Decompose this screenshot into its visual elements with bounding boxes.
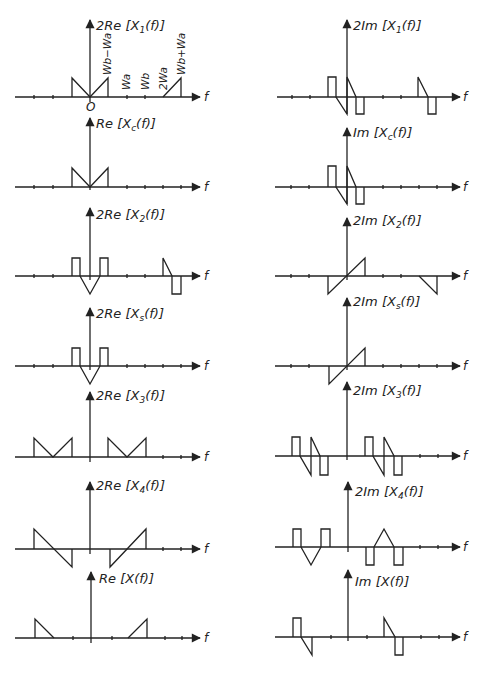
baseband-shape xyxy=(328,166,364,204)
panel-label: 2Re [X1(f)] xyxy=(96,18,165,35)
right-neg-pulse-2 xyxy=(394,547,403,565)
right-m-shape xyxy=(108,438,146,457)
right-triangle xyxy=(128,619,147,638)
left-triangle xyxy=(35,619,54,638)
panel-re-xs: 2Re [Xs(f)] f xyxy=(15,306,210,384)
left-negative-v xyxy=(301,547,321,565)
label-wa: Wa xyxy=(120,74,132,90)
f-label: f xyxy=(463,359,469,373)
f-label: f xyxy=(204,450,210,464)
right-neg-pulse-1 xyxy=(366,547,374,565)
panel-label: Im [X(f)] xyxy=(355,574,409,589)
panel-im-x4: 2Im [X4(f)] f xyxy=(275,482,469,565)
f-label: f xyxy=(463,449,469,463)
f-label: f xyxy=(204,542,210,556)
panel-label: 2Re [X4(f)] xyxy=(96,478,165,495)
panel-re-x1: 2Re [X1(f)] f O Wb−Wa Wa Wb 2Wa Wb+Wa xyxy=(15,18,210,114)
panel-label: 2Im [X4(f)] xyxy=(355,484,423,501)
panel-im-xc: Im [Xc(f)] f xyxy=(275,125,469,204)
left-sawtooth xyxy=(34,529,72,567)
f-label: f xyxy=(463,540,469,554)
panel-im-xs: 2Im [Xs(f)] f xyxy=(275,294,469,384)
panel-label: 2Im [Xs(f)] xyxy=(353,294,420,311)
panel-label: 2Im [X2(f)] xyxy=(353,213,421,230)
f-label: f xyxy=(463,90,469,104)
f-label: f xyxy=(463,269,469,283)
left-m-shape xyxy=(34,438,72,457)
f-label: f xyxy=(204,90,210,104)
panel-label: 2Im [X1(f)] xyxy=(353,18,421,35)
panel-im-x1: 2Im [X1(f)] f xyxy=(277,18,469,114)
f-label: f xyxy=(204,359,210,373)
label-2wa: 2Wa xyxy=(157,67,169,90)
upper-band-shape xyxy=(418,77,436,114)
label-wb: Wb xyxy=(139,73,151,90)
right-pulse xyxy=(100,348,108,366)
left-pulse-1 xyxy=(293,529,301,547)
spectrum-diagram: 2Re [X1(f)] f O Wb−Wa Wa Wb 2Wa Wb+Wa Re… xyxy=(0,0,483,674)
panel-label: Re [X(f)] xyxy=(99,571,154,586)
left-pulse xyxy=(72,348,80,366)
panel-label: 2Re [X3(f)] xyxy=(96,388,165,405)
right-positive-v xyxy=(374,529,394,547)
right-sawtooth xyxy=(110,529,146,567)
origin-label: O xyxy=(86,100,95,114)
panel-label: Re [Xc(f)] xyxy=(96,116,156,133)
panel-re-x3: 2Re [X3(f)] f xyxy=(15,388,210,464)
f-label: f xyxy=(463,180,469,194)
f-label: f xyxy=(204,180,210,194)
f-label: f xyxy=(204,269,210,283)
f-label: f xyxy=(463,630,469,644)
baseband-shape xyxy=(328,77,364,114)
panel-label: 2Re [X2(f)] xyxy=(96,207,165,224)
label-wb-minus-wa: Wb−Wa xyxy=(101,33,113,75)
panel-re-x2: 2Re [X2(f)] f xyxy=(15,207,210,294)
panel-im-x3: 2Im [X3(f)] f xyxy=(275,382,469,475)
panel-label: 2Im [X3(f)] xyxy=(353,383,421,400)
panel-im-x2: 2Im [X2(f)] f xyxy=(275,213,469,294)
left-pulse xyxy=(72,258,80,276)
f-label: f xyxy=(204,631,210,645)
panel-im-x: Im [X(f)] f xyxy=(275,570,469,655)
panel-re-xc: Re [Xc(f)] f xyxy=(15,116,210,194)
label-wb-plus-wa: Wb+Wa xyxy=(175,33,187,75)
right-pulse xyxy=(100,258,108,276)
panel-label: 2Re [Xs(f)] xyxy=(96,306,164,323)
panel-label: Im [Xc(f)] xyxy=(353,125,412,142)
upper-triangle xyxy=(419,276,437,294)
panel-re-x: Re [X(f)] f xyxy=(15,571,210,645)
panel-re-x4: 2Re [X4(f)] f xyxy=(15,478,210,567)
left-pulse-2 xyxy=(321,529,330,547)
